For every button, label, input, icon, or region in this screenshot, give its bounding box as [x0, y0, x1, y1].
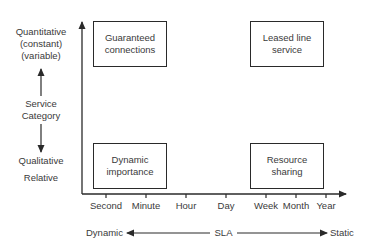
box-dynamic-importance: Dynamic importance [93, 143, 167, 189]
y-axis-bottom-label-qualitative: Qualitative [1, 155, 81, 167]
box-resource-sharing: Resource sharing [250, 143, 324, 189]
sla-label: SLA [210, 227, 237, 239]
box-leased-line-service: Leased line service [250, 21, 324, 67]
y-axis-top-label: Quantitative (constant) (variable) [1, 26, 81, 62]
y-axis-middle-label: Service Category [1, 98, 81, 122]
box-guaranteed-connections: Guaranteed connections [93, 21, 167, 67]
tick-label-second: Second [86, 200, 126, 212]
sla-static-label: Static [330, 227, 364, 239]
tick-label-day: Day [206, 200, 246, 212]
tick-label-month: Month [279, 200, 313, 212]
tick-label-hour: Hour [166, 200, 206, 212]
tick-label-year: Year [310, 200, 342, 212]
tick-label-minute: Minute [126, 200, 166, 212]
y-axis-bottom-label-relative: Relative [1, 172, 81, 184]
sla-dynamic-label: Dynamic [86, 227, 126, 239]
